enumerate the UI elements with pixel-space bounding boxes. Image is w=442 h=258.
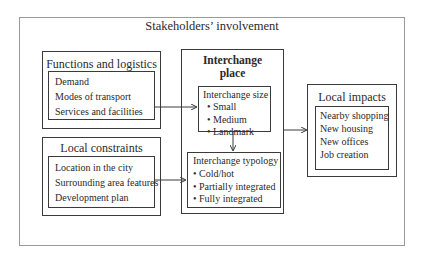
connector-arrows <box>0 0 442 258</box>
